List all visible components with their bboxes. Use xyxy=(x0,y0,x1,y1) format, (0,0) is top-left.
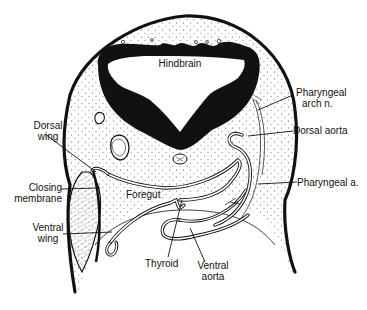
label-pharyngeal-arch-nerve: Pharyngeal arch n. xyxy=(296,87,347,109)
label-ventral-wing-line1: Ventral xyxy=(30,222,66,233)
label-hindbrain: Hindbrain xyxy=(150,58,210,69)
label-ventral-wing-line2: wing xyxy=(30,233,66,244)
diagram-drawing xyxy=(0,0,367,310)
label-ventral-aorta: Ventral aorta xyxy=(195,260,231,282)
label-closing-membrane: Closing membrane xyxy=(14,182,62,204)
label-closing-membrane-line1: Closing xyxy=(14,182,62,193)
label-thyroid: Thyroid xyxy=(145,258,178,269)
label-dorsal-aorta: Dorsal aorta xyxy=(293,125,347,136)
label-closing-membrane-line2: membrane xyxy=(14,193,62,204)
label-dorsal-wing: Dorsal wing xyxy=(30,120,66,142)
embryo-cross-section-diagram: Hindbrain Pharyngeal arch n. Dorsal aort… xyxy=(0,0,367,310)
label-pharyngeal-artery: Pharyngeal a. xyxy=(297,177,359,188)
label-foregut: Foregut xyxy=(126,189,160,200)
label-ventral-wing: Ventral wing xyxy=(30,222,66,244)
label-dorsal-wing-line2: wing xyxy=(30,131,66,142)
label-ventral-aorta-line2: aorta xyxy=(195,271,231,282)
label-pharyngeal-arch-nerve-line2: arch n. xyxy=(296,98,347,109)
label-pharyngeal-arch-nerve-line1: Pharyngeal xyxy=(296,87,347,98)
label-dorsal-wing-line1: Dorsal xyxy=(30,120,66,131)
label-ventral-aorta-line1: Ventral xyxy=(195,260,231,271)
